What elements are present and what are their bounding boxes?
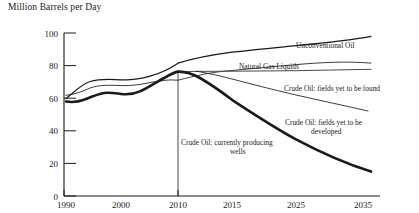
x-tick-label-2010: 2010 [169, 200, 188, 210]
chart-plot-area: 100 80 60 40 20 0 1990 2000 2010 2015 20… [0, 0, 419, 213]
x-axis-ticks [64, 190, 178, 196]
chart-container: Million Barrels per Day 100 80 60 40 20 … [0, 0, 419, 213]
x-tick-label-2025: 2025 [287, 200, 306, 210]
series-label-crude-oil-currently-producing-wells-line1: Crude Oil: currently producing [181, 138, 273, 147]
y-tick-label-20: 20 [49, 159, 59, 169]
y-tick-label-100: 100 [45, 29, 59, 39]
y-tick-label-40: 40 [49, 126, 59, 136]
series-label-natural-gas-liquids: Natural Gas Liquids [239, 62, 299, 71]
series-label-crude-oil-fields-yet-to-be-developed-line1: Crude Oil: fields yet to be [285, 118, 363, 127]
y-tick-label-60: 60 [49, 94, 59, 104]
y-axis-ticks [64, 33, 76, 196]
x-tick-label-1990: 1990 [57, 200, 76, 210]
y-tick-label-80: 80 [49, 61, 59, 71]
series-label-crude-oil-currently-producing-wells-line2: wells [230, 147, 246, 156]
x-tick-label-2015: 2015 [223, 200, 242, 210]
series-label-crude-oil-fields-yet-to-be-found: Crude Oil: fields yet to be found [284, 84, 380, 93]
series-label-crude-oil-fields-yet-to-be-developed-line2: developed [311, 127, 342, 136]
x-tick-label-2035: 2035 [354, 200, 373, 210]
x-tick-label-2000: 2000 [112, 200, 131, 210]
series-label-unconventional-oil: Unconventional Oil [296, 41, 355, 50]
